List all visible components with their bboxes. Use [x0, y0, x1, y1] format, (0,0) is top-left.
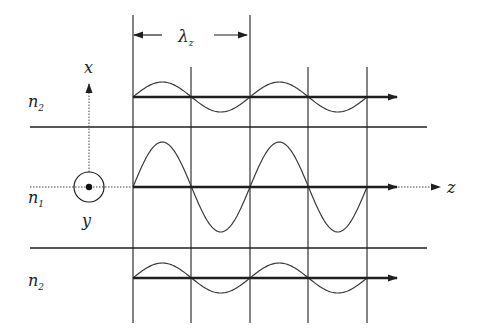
y-axis-label: y: [81, 211, 92, 230]
propagation-arrows: [133, 97, 397, 278]
n2-top-label: n2: [28, 92, 44, 113]
waveguide-mode-diagram: λz x y z n2 n1 n2: [0, 0, 485, 332]
n1-core-label: n1: [28, 188, 44, 209]
x-axis-label: x: [84, 58, 93, 77]
wavelength-dimension: λz: [134, 26, 247, 48]
n2-bottom-label: n2: [28, 271, 44, 292]
y-axis-dot-icon: [86, 184, 92, 190]
lambda-label: λz: [177, 26, 194, 48]
z-axis-label: z: [446, 178, 456, 197]
